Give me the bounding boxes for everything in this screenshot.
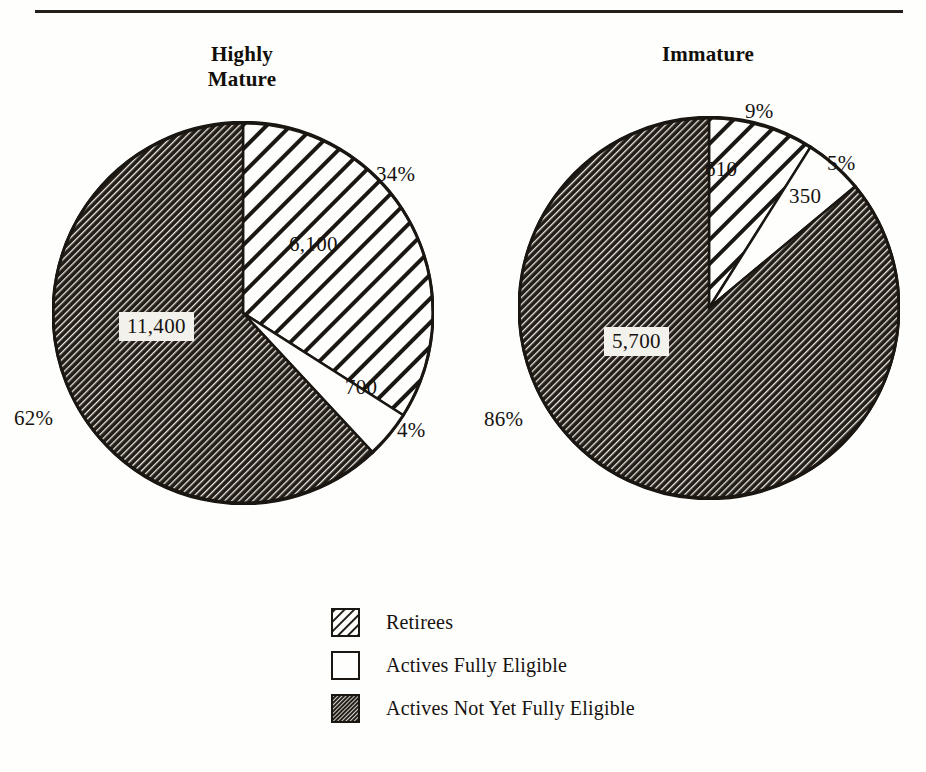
pie-a-label-retirees-value: 6,100 bbox=[289, 233, 338, 255]
pie-b-label-actives-fully-eligible-value: 350 bbox=[789, 185, 821, 207]
pie-a-label-actives-not-yet-fully-eligible-percent: 62% bbox=[14, 407, 53, 429]
legend-item-actives-fully-eligible[interactable]: Actives Fully Eligible bbox=[331, 645, 761, 685]
chart-page: Highly Mature 34% 6,100 11,400 62% 700 4… bbox=[0, 0, 926, 772]
pie-b-label-actives-not-yet-fully-eligible-value: 5,700 bbox=[605, 328, 668, 355]
legend-swatch-solid-white-icon bbox=[331, 651, 360, 680]
legend-item-retirees[interactable]: Retirees bbox=[331, 602, 761, 642]
pie-b-label-retirees-value: 610 bbox=[705, 158, 737, 180]
pie-a-label-actives-fully-eligible-value: 700 bbox=[345, 376, 377, 398]
legend-label-retirees: Retirees bbox=[386, 611, 453, 633]
legend-item-actives-not-yet-fully-eligible[interactable]: Actives Not Yet Fully Eligible bbox=[331, 688, 761, 728]
pie-a-label-retirees-percent: 34% bbox=[376, 163, 415, 185]
pie-b-label-actives-fully-eligible-percent: 5% bbox=[827, 152, 856, 174]
legend-swatch-hatch-dense-icon bbox=[331, 694, 360, 723]
legend-label-actives-not-yet-fully-eligible: Actives Not Yet Fully Eligible bbox=[386, 697, 635, 719]
pie-b-label-actives-not-yet-fully-eligible-percent: 86% bbox=[484, 408, 523, 430]
legend: Retirees Actives Fully Eligible Actives … bbox=[331, 602, 761, 731]
legend-swatch-hatch-light-icon bbox=[331, 608, 360, 637]
pie-b-label-retirees-percent: 9% bbox=[745, 100, 774, 122]
chart-title-immature: Immature bbox=[618, 42, 798, 67]
pie-a-label-actives-not-yet-fully-eligible-value: 11,400 bbox=[120, 313, 193, 340]
legend-label-actives-fully-eligible: Actives Fully Eligible bbox=[386, 654, 567, 676]
pie-a-label-actives-fully-eligible-percent: 4% bbox=[397, 419, 426, 441]
top-horizontal-rule bbox=[35, 10, 903, 13]
chart-title-highly-mature: Highly Mature bbox=[152, 42, 332, 92]
